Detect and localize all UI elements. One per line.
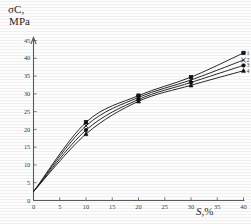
y-tick-label: 10 <box>24 161 30 168</box>
x-tick-label: 10 <box>83 203 89 210</box>
axes-group <box>31 38 245 201</box>
x-tick-label: 30 <box>188 203 194 210</box>
y-tick-label: 35 <box>24 72 30 79</box>
data-marker-triangle <box>242 69 246 73</box>
data-marker-circle <box>242 64 246 68</box>
tick-group <box>34 41 244 201</box>
x-tick-label: 20 <box>135 203 141 210</box>
x-tick-label: 40 <box>240 203 246 210</box>
chart-canvas: 0510152025303540051015202530354045 1234 <box>0 0 251 224</box>
x-tick-label: 15 <box>109 203 115 210</box>
y-tick-label: 25 <box>24 108 30 115</box>
x-tick-label: 35 <box>214 203 220 210</box>
x-tick-label: 0 <box>32 203 35 210</box>
y-tick-label: 45 <box>24 37 30 44</box>
y-tick-label: 20 <box>24 126 30 133</box>
chart-figure: σC, MPa S,% 0510152025303540051015202530… <box>0 0 251 224</box>
curve-label-group: 1234 <box>247 50 250 74</box>
y-tick-label: 0 <box>27 197 30 204</box>
y-tick-label: 40 <box>24 54 30 61</box>
x-tick-label: 25 <box>162 203 168 210</box>
y-tick-label: 5 <box>27 179 30 186</box>
y-tick-label: 15 <box>24 143 30 150</box>
x-tick-label: 5 <box>58 203 61 210</box>
series-end-label-4: 4 <box>247 68 250 74</box>
series-line-4 <box>34 71 244 192</box>
series-end-label-1: 1 <box>247 50 250 56</box>
data-marker-square <box>84 121 87 124</box>
curve-group <box>34 53 244 192</box>
series-line-1 <box>34 53 244 192</box>
tick-label-group: 0510152025303540051015202530354045 <box>24 37 247 210</box>
y-tick-label: 30 <box>24 90 30 97</box>
data-marker-square <box>242 51 245 54</box>
series-line-3 <box>34 65 244 191</box>
